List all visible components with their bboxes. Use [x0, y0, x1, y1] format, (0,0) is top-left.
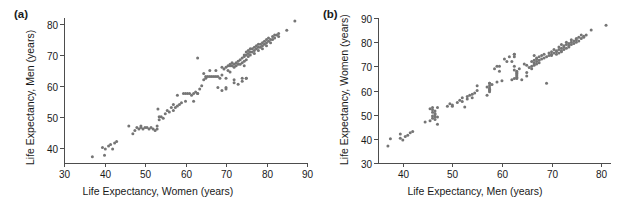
data-point	[196, 92, 199, 95]
data-point	[471, 96, 474, 99]
data-point	[218, 77, 221, 80]
data-point	[220, 89, 223, 92]
data-point	[243, 64, 246, 67]
data-point	[139, 124, 142, 127]
y-tick-label: 30	[352, 158, 372, 169]
data-point	[386, 145, 389, 148]
data-point	[162, 117, 165, 120]
data-point	[233, 78, 236, 81]
data-point	[131, 132, 134, 135]
data-point	[245, 77, 248, 80]
data-point	[545, 82, 548, 85]
data-point	[168, 111, 171, 114]
x-tick-label: 30	[59, 169, 70, 180]
data-point	[399, 137, 402, 140]
data-point	[543, 53, 546, 56]
data-point	[109, 143, 112, 146]
data-point	[486, 94, 489, 97]
data-point	[518, 67, 521, 70]
data-point	[172, 109, 175, 112]
panel-b: (b) 405060708030405060708090Life Expecta…	[317, 0, 633, 204]
y-tick-label: 90	[352, 13, 372, 24]
data-point	[476, 89, 479, 92]
data-point	[202, 72, 205, 75]
data-point	[446, 105, 449, 108]
data-point	[389, 137, 392, 140]
data-point	[463, 105, 466, 108]
x-tick-label: 50	[447, 169, 458, 180]
data-point	[557, 46, 560, 49]
data-point	[552, 48, 555, 51]
data-point	[550, 50, 553, 53]
data-point	[200, 84, 203, 87]
data-point	[570, 38, 573, 41]
y-tick-label: 40	[352, 134, 372, 145]
data-point	[253, 52, 256, 55]
x-tick-label: 40	[100, 169, 111, 180]
x-tick-label: 60	[181, 169, 192, 180]
data-point	[493, 67, 496, 70]
data-point	[401, 139, 404, 142]
data-point	[577, 36, 580, 39]
data-point	[249, 54, 252, 57]
data-point	[172, 103, 175, 106]
panel-a: (a) 304050607080904050607080Life Expecta…	[0, 0, 316, 204]
data-point	[237, 83, 240, 86]
data-point	[127, 124, 130, 127]
data-point	[229, 70, 232, 73]
data-point	[225, 77, 228, 80]
data-point	[458, 99, 461, 102]
data-point	[164, 112, 167, 115]
data-point	[208, 69, 211, 72]
data-point	[233, 81, 236, 84]
data-point	[257, 49, 260, 52]
data-point	[495, 65, 498, 68]
data-point	[269, 41, 272, 44]
y-tick-label: 70	[352, 61, 372, 72]
data-point	[513, 68, 516, 71]
data-point	[273, 37, 276, 40]
data-point	[216, 86, 219, 89]
data-point	[245, 58, 248, 61]
data-point	[214, 69, 217, 72]
data-point	[158, 118, 161, 121]
data-point	[520, 78, 523, 81]
y-tick-label: 40	[38, 143, 58, 154]
x-tick-label: 40	[398, 169, 409, 180]
data-point	[488, 82, 491, 85]
data-point	[229, 64, 232, 67]
data-point	[156, 124, 159, 127]
y-tick-label: 60	[38, 81, 58, 92]
data-point	[565, 41, 568, 44]
data-point	[170, 106, 173, 109]
data-point	[104, 148, 107, 151]
data-point	[580, 33, 583, 36]
data-point	[156, 128, 159, 131]
data-point	[184, 100, 187, 103]
data-point	[241, 77, 244, 80]
data-point	[180, 101, 183, 104]
data-point	[176, 94, 179, 97]
data-point	[115, 140, 118, 143]
x-tick-label: 80	[262, 169, 273, 180]
figure-container: (a) 304050607080904050607080Life Expecta…	[0, 0, 633, 204]
y-tick-label: 60	[352, 86, 372, 97]
data-point	[225, 87, 228, 90]
data-point	[220, 74, 223, 77]
x-tick-label: 50	[140, 169, 151, 180]
data-point	[500, 79, 503, 82]
data-point	[399, 133, 402, 136]
data-point	[424, 120, 427, 123]
data-point	[461, 96, 464, 99]
data-point	[513, 65, 516, 68]
y-axis-title: Life Expectancy, Men (years)	[24, 30, 36, 165]
y-tick-label: 80	[352, 37, 372, 48]
data-point	[495, 81, 498, 84]
data-point	[498, 70, 501, 73]
data-point-group	[91, 20, 297, 159]
data-point	[285, 29, 288, 32]
y-axis-title: Life Expectancy, Women (years)	[338, 14, 350, 165]
data-point	[473, 91, 476, 94]
data-point	[436, 106, 439, 109]
scatter-plot-b	[317, 0, 633, 204]
